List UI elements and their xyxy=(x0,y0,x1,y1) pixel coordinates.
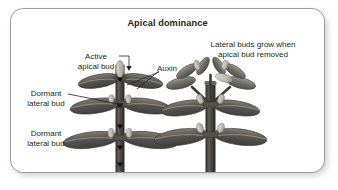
annotation-active-apical-bud: Active apical bud xyxy=(65,52,127,72)
annotation-dormant-lateral-bud-lower: Dormant lateral bud xyxy=(15,129,77,149)
annotation-auxin: Auxin xyxy=(157,64,191,74)
annotation-lateral-buds-grow-caption: Lateral buds grow when apical bud remove… xyxy=(189,40,317,60)
figure-panel: Apical dominance xyxy=(10,8,325,173)
left-plant xyxy=(62,61,179,173)
figure-root: Apical dominance xyxy=(0,0,338,190)
annotation-dormant-lateral-bud-upper: Dormant lateral bud xyxy=(15,89,77,109)
